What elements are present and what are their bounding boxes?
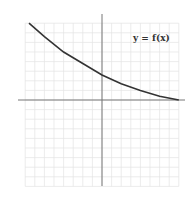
function-label: y = f(x) xyxy=(132,33,170,43)
function-graph: y = f(x) xyxy=(0,0,195,198)
